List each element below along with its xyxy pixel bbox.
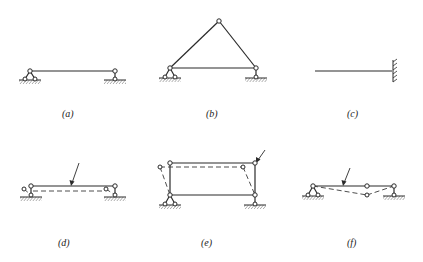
figure-svg: (a) (b) <box>0 0 423 262</box>
sag-dashed-right <box>367 186 394 195</box>
truss-member-left <box>170 21 219 68</box>
hinge-icon <box>217 19 221 23</box>
hinge-icon <box>113 69 117 73</box>
ground-icon <box>20 197 42 201</box>
ground-icon <box>104 197 126 201</box>
structural-diagram-figure: (a) (b) <box>0 0 423 262</box>
hinge-icon <box>168 66 172 70</box>
fixed-support-icon <box>393 59 397 82</box>
load-arrow-icon <box>256 150 265 163</box>
caption-f: (f) <box>347 237 357 249</box>
panel-b: (b) <box>159 19 267 120</box>
panel-a: (a) <box>19 69 126 120</box>
caption-b: (b) <box>206 108 218 120</box>
load-arrow-icon <box>342 168 351 186</box>
caption-d: (d) <box>58 237 70 249</box>
truss-member-right <box>219 21 256 68</box>
hinge-icon <box>28 69 32 73</box>
panel-f: (f) <box>302 168 405 249</box>
caption-a: (a) <box>62 108 74 120</box>
panel-d: (d) <box>20 163 126 249</box>
sag-dashed-left <box>313 186 367 195</box>
load-arrow-icon <box>70 163 80 186</box>
hinge-icon <box>254 66 258 70</box>
panel-e: (e) <box>158 150 266 249</box>
panel-c: (c) <box>315 59 397 120</box>
caption-e: (e) <box>201 237 213 249</box>
caption-c: (c) <box>347 108 359 120</box>
